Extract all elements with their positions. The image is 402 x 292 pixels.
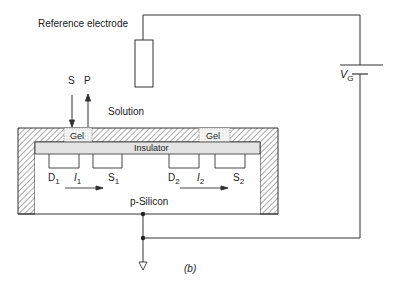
- substrate-node: [141, 212, 145, 216]
- reference-electrode-label: Reference electrode: [38, 18, 128, 29]
- solution-label: Solution: [108, 106, 144, 117]
- gel-left-label: Gel: [70, 131, 84, 141]
- substrate-label: S: [68, 75, 75, 86]
- product-arrow: [86, 94, 91, 127]
- substrate-arrow: [70, 95, 75, 127]
- gel-right-label: Gel: [206, 131, 220, 141]
- ground-icon: [139, 262, 147, 270]
- insulator-label: Insulator: [134, 143, 169, 153]
- silicon-label: p-Silicon: [130, 196, 168, 207]
- figure-tag: (b): [184, 263, 196, 274]
- gate-voltage-label: VG: [340, 68, 354, 83]
- product-label: P: [84, 75, 91, 86]
- reference-electrode: [135, 40, 153, 87]
- enzyme-fet-diagram: VG Reference electrode S P Solution Gel …: [0, 0, 402, 292]
- junction-node: [141, 236, 145, 240]
